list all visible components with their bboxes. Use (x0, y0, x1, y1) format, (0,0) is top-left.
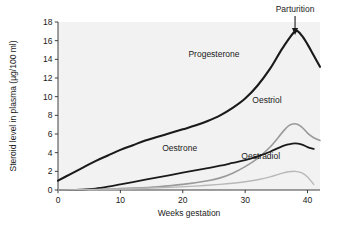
steroid-levels-line-chart: 024681012141618010203040Weeks gestationS… (0, 0, 340, 228)
plot-background (58, 22, 320, 190)
y-axis-tick-label: 6 (48, 129, 53, 139)
series-label-oestriol: Oestriol (252, 95, 281, 105)
annotation-label-parturition: Parturition (276, 4, 315, 14)
x-axis-tick-label: 40 (303, 195, 313, 205)
y-axis-tick-label: 2 (48, 166, 53, 176)
y-axis-tick-label: 18 (43, 17, 53, 27)
series-label-progesterone: Progesterone (188, 49, 239, 59)
x-axis-tick-label: 0 (56, 195, 61, 205)
y-axis-tick-label: 12 (43, 73, 53, 83)
series-label-oestrone: Oestrone (162, 143, 197, 153)
chart-figure: 024681012141618010203040Weeks gestationS… (0, 0, 340, 228)
y-axis-tick-label: 14 (43, 54, 53, 64)
x-axis-tick-label: 10 (116, 195, 126, 205)
x-axis-tick-label: 20 (178, 195, 188, 205)
y-axis-tick-label: 10 (43, 92, 53, 102)
y-axis-tick-label: 16 (43, 36, 53, 46)
series-label-oestradiol: Oestradiol (241, 151, 280, 161)
x-axis-title: Weeks gestation (158, 208, 221, 218)
y-axis-title: Steroid level in plasma (µg/100 ml) (8, 40, 18, 171)
y-axis-tick-label: 0 (48, 185, 53, 195)
x-axis-tick-label: 30 (240, 195, 250, 205)
y-axis-tick-label: 8 (48, 110, 53, 120)
y-axis-tick-label: 4 (48, 148, 53, 158)
